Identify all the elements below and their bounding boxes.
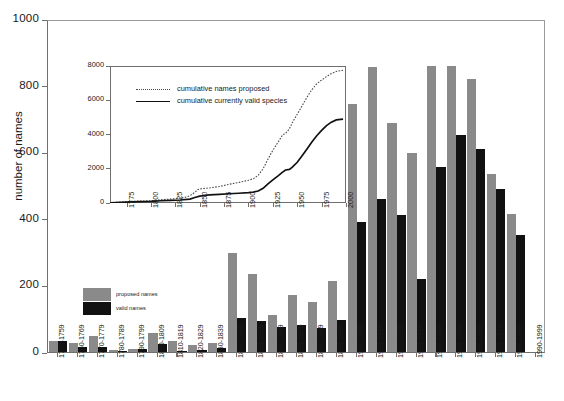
- inset-legend-line-valid: [136, 101, 170, 102]
- inset-x-tick-label: 1925: [273, 192, 282, 208]
- legend-label-valid: valid names: [116, 305, 146, 311]
- x-tick-label: 1770-1779: [97, 325, 106, 358]
- x-tick-label: 1880-1889: [316, 325, 325, 358]
- y-tick-label: 200: [19, 278, 39, 290]
- x-tick-label: 1920-1929: [396, 325, 405, 358]
- x-axis: 1750-17591760-17691770-17791780-17891790…: [47, 353, 545, 401]
- x-tick-label: 1860-1869: [276, 325, 285, 358]
- x-tick-label: 1890-1899: [336, 325, 345, 358]
- inset-y-axis: 02000400060008000: [72, 66, 110, 203]
- x-tick-label: 1960-1969: [475, 325, 484, 358]
- inset-legend-label-valid: cumulative currently valid species: [177, 96, 287, 105]
- inset-x-tick-label: 2000: [346, 192, 355, 208]
- x-tick-label: 1800-1809: [157, 325, 166, 358]
- x-tick-label: 1810-1819: [176, 325, 185, 358]
- inset-y-tick-label: 2000: [88, 163, 104, 172]
- x-tick-label: 1970-1979: [495, 325, 504, 358]
- bar-group: [387, 21, 405, 352]
- inset-x-tick-label: 1875: [224, 192, 233, 208]
- bar-group: [447, 21, 465, 352]
- x-tick-label: 1750-1759: [57, 325, 66, 358]
- inset-y-tick-label: 4000: [88, 129, 104, 138]
- bar-group: [427, 21, 445, 352]
- bar-valid: [456, 135, 465, 352]
- inset-x-tick-label: 1825: [175, 192, 184, 208]
- inset-y-tick-label: 0: [100, 197, 104, 206]
- chart-root: number of names 02004006008001000 1750-1…: [0, 0, 564, 401]
- bar-group: [368, 21, 386, 352]
- y-tick-label: 400: [19, 212, 39, 224]
- x-tick-label: 1760-1769: [77, 325, 86, 358]
- bar-proposed: [348, 104, 357, 352]
- y-tick-label: 0: [32, 345, 39, 357]
- inset-legend-label-proposed: cumulative names proposed: [177, 84, 269, 93]
- bar-group: [407, 21, 425, 352]
- bar-group: [527, 21, 545, 352]
- inset-x-tick-label: 1900: [248, 192, 257, 208]
- bar-proposed: [387, 123, 396, 352]
- inset-y-tick-label: 6000: [88, 94, 104, 103]
- bar-group: [49, 21, 67, 352]
- x-tick-label: 1940-1949: [435, 325, 444, 358]
- inset-x-tick-label: 1975: [322, 192, 331, 208]
- x-tick-label: 1780-1789: [117, 325, 126, 358]
- y-tick-label: 800: [19, 79, 39, 91]
- x-tick-label: 1790-1799: [137, 325, 146, 358]
- bar-proposed: [447, 66, 456, 352]
- legend-swatch-valid: [83, 302, 111, 315]
- y-tick-label: 600: [19, 145, 39, 157]
- bar-proposed: [368, 67, 377, 352]
- x-tick-label: 1980-1989: [515, 325, 524, 358]
- bar-group: [348, 21, 366, 352]
- inset-x-axis: 1775180018251850187519001925195019752000: [110, 203, 346, 243]
- x-tick-label: 1840-1849: [236, 325, 245, 358]
- x-tick-label: 1900-1909: [356, 325, 365, 358]
- legend-swatch-proposed: [83, 288, 111, 301]
- inset-y-tick-label: 8000: [88, 60, 104, 69]
- bar-group: [487, 21, 505, 352]
- inset-x-tick-label: 1950: [297, 192, 306, 208]
- x-tick-label: 1870-1879: [296, 325, 305, 358]
- bar-valid: [476, 149, 485, 352]
- x-tick-label: 1830-1839: [216, 325, 225, 358]
- x-tick-label: 1930-1939: [416, 325, 425, 358]
- inset-chart: 02000400060008000 1775180018251850187519…: [110, 51, 346, 203]
- x-tick-label: 1850-1859: [256, 325, 265, 358]
- y-axis: 02004006008001000: [0, 20, 47, 353]
- bar-group: [467, 21, 485, 352]
- legend-label-proposed: proposed names: [116, 291, 158, 297]
- x-tick-label: 1910-1919: [376, 325, 385, 358]
- bar-proposed: [427, 66, 436, 352]
- inset-x-tick-label: 1850: [200, 192, 209, 208]
- bar-proposed: [467, 79, 476, 352]
- inset-x-tick-label: 1775: [127, 192, 136, 208]
- inset-x-tick-label: 1800: [151, 192, 160, 208]
- inset-legend-line-proposed: [136, 89, 170, 90]
- bar-group: [507, 21, 525, 352]
- x-tick-label: 1990-1999: [535, 325, 544, 358]
- bar-proposed: [407, 153, 416, 352]
- y-tick-label: 1000: [13, 12, 39, 24]
- inset-line-valid: [110, 119, 343, 203]
- x-tick-label: 1950-1959: [455, 325, 464, 358]
- x-tick-label: 1820-1829: [196, 325, 205, 358]
